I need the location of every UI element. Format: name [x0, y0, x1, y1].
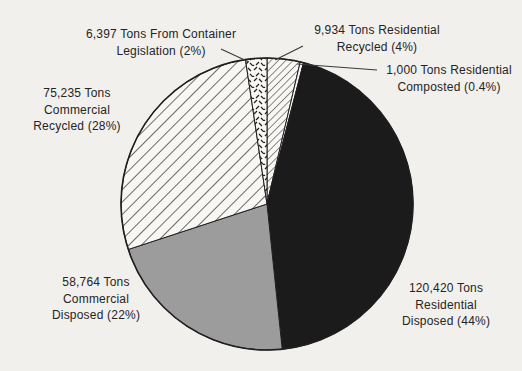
label-commercial-disposed: 58,764 Tons Commercial Disposed (22%)	[26, 274, 166, 324]
label-residential-recycled: 9,934 Tons Residential Recycled (4%)	[292, 22, 462, 55]
label-commercial-recycled: 75,235 Tons Commercial Recycled (28%)	[7, 85, 147, 135]
label-residential-disposed: 120,420 Tons Residential Disposed (44%)	[371, 280, 521, 330]
label-container-legislation: 6,397 Tons From Container Legislation (2…	[66, 26, 256, 59]
label-residential-composted: 1,000 Tons Residential Composted (0.4%)	[376, 62, 522, 95]
pie-chart-figure: 6,397 Tons From Container Legislation (2…	[0, 0, 522, 371]
